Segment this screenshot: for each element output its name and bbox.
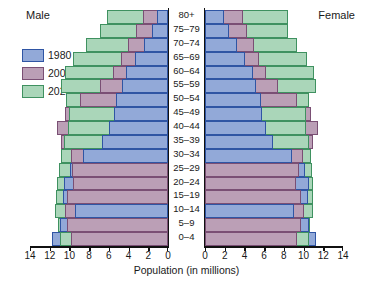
age-group-label: 30–34 — [169, 147, 204, 161]
bar-row — [205, 79, 343, 93]
bar-2002-male — [67, 218, 168, 232]
bar-1980-female — [205, 107, 262, 121]
age-group-label: 60–64 — [169, 64, 204, 78]
bar-row — [30, 177, 168, 191]
bar-2002-male — [73, 177, 168, 191]
bar-1980-male — [126, 66, 168, 80]
axis-tick-label: 12 — [44, 250, 55, 261]
bar-row — [205, 52, 343, 66]
age-group-label: 50–54 — [169, 91, 204, 105]
bar-row — [205, 149, 343, 163]
bar-row — [30, 149, 168, 163]
bar-row — [205, 66, 343, 80]
bar-row — [30, 38, 168, 52]
bar-1980-male — [157, 10, 168, 24]
bar-1980-female — [205, 52, 245, 66]
bar-row — [30, 10, 168, 24]
axis-tick-label: 6 — [261, 250, 267, 261]
bar-row — [205, 107, 343, 121]
axis-tick-label: 0 — [165, 250, 171, 261]
bar-row — [205, 24, 343, 38]
bar-row — [30, 190, 168, 204]
bar-1980-male — [116, 93, 168, 107]
axis-tick-label: 10 — [64, 250, 75, 261]
bar-row — [205, 177, 343, 191]
axis-tick-label: 12 — [318, 250, 329, 261]
age-group-label: 10–14 — [169, 202, 204, 216]
bar-1980-female — [205, 24, 229, 38]
bar-2002-male — [71, 232, 168, 246]
bar-row — [30, 79, 168, 93]
age-group-label: 75–79 — [169, 22, 204, 36]
axis-tick-label: 8 — [86, 250, 92, 261]
bar-row — [30, 232, 168, 246]
female-bars-panel — [205, 10, 343, 246]
bar-1980-female — [205, 38, 237, 52]
bar-row — [30, 66, 168, 80]
bar-row — [30, 218, 168, 232]
bar-2002-female — [205, 163, 299, 177]
bar-1980-female — [205, 149, 292, 163]
bar-row — [30, 163, 168, 177]
bar-2002-male — [72, 163, 168, 177]
age-group-label: 35–39 — [169, 133, 204, 147]
female-x-axis — [205, 246, 343, 248]
bar-row — [205, 218, 343, 232]
bar-1980-female — [205, 66, 253, 80]
bar-2002-male — [67, 190, 168, 204]
bar-2002-female — [205, 232, 297, 246]
bar-2002-female — [205, 190, 301, 204]
bar-row — [30, 107, 168, 121]
male-x-axis — [30, 246, 168, 248]
male-bars-panel — [30, 10, 168, 246]
age-group-label: 65–69 — [169, 50, 204, 64]
axis-tick-label: 2 — [146, 250, 152, 261]
age-group-axis: 80+75–7970–7465–6960–6455–5950–5445–4940… — [168, 8, 205, 248]
bar-2002-female — [205, 218, 301, 232]
bar-1980-male — [75, 204, 168, 218]
bar-row — [30, 121, 168, 135]
age-group-label: 25–29 — [169, 161, 204, 175]
axis-tick-label: 14 — [24, 250, 35, 261]
bar-row — [205, 93, 343, 107]
bar-1980-male — [144, 38, 168, 52]
axis-tick-label: 4 — [242, 250, 248, 261]
bar-2002-female — [205, 177, 296, 191]
bar-row — [205, 190, 343, 204]
bar-1980-male — [102, 135, 168, 149]
age-group-label: 45–49 — [169, 105, 204, 119]
bar-row — [30, 204, 168, 218]
age-group-label: 70–74 — [169, 36, 204, 50]
bar-row — [30, 24, 168, 38]
axis-tick-label: 4 — [126, 250, 132, 261]
bar-row — [205, 232, 343, 246]
axis-tick-label: 8 — [281, 250, 287, 261]
bar-1980-female — [205, 93, 261, 107]
bar-row — [205, 121, 343, 135]
bar-1980-female — [205, 10, 224, 24]
age-group-label: 15–19 — [169, 188, 204, 202]
axis-tick-label: 2 — [222, 250, 228, 261]
bar-row — [205, 204, 343, 218]
age-group-label: 40–44 — [169, 119, 204, 133]
age-group-label: 55–59 — [169, 77, 204, 91]
bar-1980-male — [109, 121, 168, 135]
x-axis-title: Population (in millions) — [0, 264, 373, 276]
bar-row — [205, 135, 343, 149]
bar-1980-male — [122, 79, 168, 93]
bar-1980-male — [135, 52, 169, 66]
axis-tick-label: 0 — [202, 250, 208, 261]
age-group-label: 0–4 — [169, 230, 204, 244]
bar-1980-female — [205, 135, 273, 149]
axis-tick-label: 14 — [337, 250, 348, 261]
axis-tick-label: 10 — [298, 250, 309, 261]
bar-row — [30, 135, 168, 149]
bar-row — [30, 52, 168, 66]
bar-row — [205, 163, 343, 177]
bar-1980-male — [114, 107, 168, 121]
bar-1980-female — [205, 204, 294, 218]
bar-1980-male — [152, 24, 168, 38]
bar-row — [30, 93, 168, 107]
population-pyramid-chart: Male Female 198020022025 80+75–7970–7465… — [0, 0, 373, 283]
bar-1980-male — [83, 149, 168, 163]
